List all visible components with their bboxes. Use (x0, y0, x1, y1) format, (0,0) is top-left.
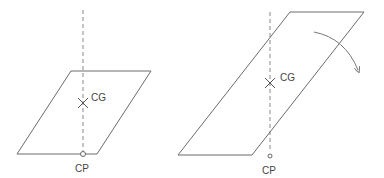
figure-stable: CG CP (17, 10, 151, 174)
cg-cross-icon (265, 78, 275, 88)
cp-label: CP (75, 163, 89, 174)
rotation-arrow-icon (314, 32, 358, 70)
parallelogram-body (17, 71, 151, 154)
figure-tilted: CG CP (178, 12, 364, 176)
cg-cross-icon (78, 98, 88, 108)
cp-label: CP (262, 165, 276, 176)
cg-label: CG (91, 92, 106, 103)
cg-label: CG (280, 72, 295, 83)
cp-point-icon (81, 152, 86, 157)
cg-cp-diagram: CG CP CG CP (0, 0, 384, 178)
cp-point-icon (268, 154, 272, 158)
